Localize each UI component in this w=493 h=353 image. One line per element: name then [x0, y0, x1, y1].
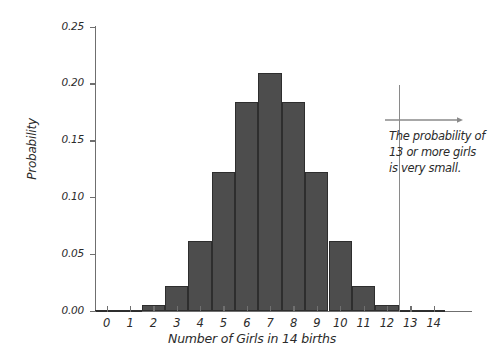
- x-tick-8: [293, 306, 294, 312]
- x-tick-6: [247, 306, 248, 312]
- y-axis-title: Probability: [25, 99, 39, 199]
- annotation-text: The probability of 13 or more girls is v…: [389, 128, 493, 176]
- x-tick-label-5: 5: [210, 316, 236, 330]
- y-tick-0.05: [90, 254, 96, 255]
- y-tick-0.20: [90, 83, 96, 84]
- x-tick-label-14: 14: [421, 316, 447, 330]
- y-tick-label-0.05: 0.05: [44, 247, 84, 259]
- x-tick-7: [270, 306, 271, 312]
- x-tick-label-4: 4: [187, 316, 213, 330]
- x-tick-label-9: 9: [304, 316, 330, 330]
- x-tick-9: [317, 306, 318, 312]
- chart-figure: 0.000.050.100.150.200.25 012345678910111…: [0, 0, 493, 353]
- annotation-line-2: 13 or more girls: [389, 144, 493, 160]
- x-tick-label-11: 11: [351, 316, 377, 330]
- x-tick-label-10: 10: [327, 316, 353, 330]
- y-axis-line: [95, 26, 96, 312]
- x-tick-label-12: 12: [374, 316, 400, 330]
- bar-4: [188, 241, 211, 311]
- x-tick-label-7: 7: [257, 316, 283, 330]
- x-tick-label-0: 0: [94, 316, 120, 330]
- x-tick-label-2: 2: [140, 316, 166, 330]
- x-tick-label-6: 6: [234, 316, 260, 330]
- x-tick-1: [130, 306, 131, 312]
- plot-area: 0.000.050.100.150.200.25 012345678910111…: [0, 0, 493, 353]
- x-tick-5: [223, 306, 224, 312]
- x-tick-13: [410, 306, 411, 312]
- bar-5: [212, 172, 235, 311]
- x-tick-label-3: 3: [164, 316, 190, 330]
- bar-9: [305, 172, 328, 311]
- y-tick-label-0.20: 0.20: [44, 76, 84, 88]
- y-tick-0.25: [90, 27, 96, 28]
- bar-6: [235, 102, 258, 311]
- x-tick-12: [387, 306, 388, 312]
- bar-10: [329, 241, 352, 311]
- bar-7: [258, 73, 281, 311]
- x-tick-0: [107, 306, 108, 312]
- y-tick-0.10: [90, 197, 96, 198]
- x-tick-label-1: 1: [117, 316, 143, 330]
- x-tick-14: [434, 306, 435, 312]
- x-tick-label-8: 8: [280, 316, 306, 330]
- annotation-line-3: is very small.: [389, 160, 493, 176]
- x-tick-3: [177, 306, 178, 312]
- bar-8: [282, 102, 305, 311]
- annotation-line-1: The probability of: [389, 128, 493, 144]
- annotation-arrow-icon: [385, 116, 463, 124]
- y-tick-label-0.00: 0.00: [44, 304, 84, 316]
- x-tick-label-13: 13: [397, 316, 423, 330]
- x-axis-title: Number of Girls in 14 births: [168, 331, 336, 346]
- y-tick-0.15: [90, 140, 96, 141]
- x-tick-10: [340, 306, 341, 312]
- y-tick-label-0.25: 0.25: [44, 20, 84, 32]
- x-tick-4: [200, 306, 201, 312]
- y-tick-0.00: [90, 311, 96, 312]
- y-tick-label-0.15: 0.15: [44, 133, 84, 145]
- y-tick-label-0.10: 0.10: [44, 190, 84, 202]
- x-tick-11: [364, 306, 365, 312]
- x-tick-2: [153, 306, 154, 312]
